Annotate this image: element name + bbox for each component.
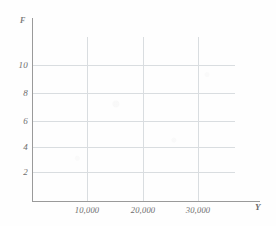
y-axis-line — [32, 18, 33, 202]
x-tick-label-30000: 30,000 — [186, 205, 211, 215]
chart-figure: 10 8 6 4 2 10,000 20,000 30,000 F Y — [0, 0, 276, 226]
scan-texture — [0, 0, 276, 226]
gridline-horizontal-4 — [33, 147, 235, 148]
gridline-vertical-30000 — [198, 37, 199, 201]
x-axis-line — [32, 201, 260, 202]
gridline-horizontal-8 — [33, 93, 235, 94]
x-tick-label-10000: 10,000 — [75, 205, 100, 215]
gridline-horizontal-2 — [33, 172, 235, 173]
gridline-horizontal-6 — [33, 121, 235, 122]
y-tick-label-10: 10 — [6, 60, 28, 70]
gridline-horizontal-10 — [33, 65, 235, 66]
x-axis-title: Y — [255, 202, 261, 212]
y-tick-label-8: 8 — [6, 88, 28, 98]
gridline-vertical-20000 — [143, 37, 144, 201]
x-tick-label-20000: 20,000 — [131, 205, 156, 215]
y-tick-label-4: 4 — [6, 142, 28, 152]
y-tick-label-6: 6 — [6, 116, 28, 126]
y-axis-title: F — [20, 16, 25, 25]
y-tick-label-2: 2 — [6, 167, 28, 177]
gridline-vertical-10000 — [87, 37, 88, 201]
